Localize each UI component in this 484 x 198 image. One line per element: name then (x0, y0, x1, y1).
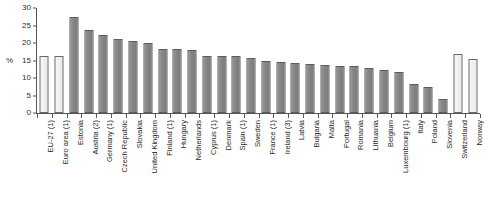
bar-slot (421, 8, 436, 113)
x-tick-label-text: Sweden (254, 120, 262, 147)
bar-slot (170, 8, 185, 113)
bar (217, 56, 226, 113)
x-tick-label-text: Spain (1) (239, 120, 247, 150)
x-tick-label: Malta (328, 120, 336, 138)
x-tick-mark (67, 114, 68, 118)
bar-slot (436, 8, 451, 113)
x-tick-label-text: Slovenia (446, 120, 454, 149)
x-tick-label: Latvia (298, 120, 306, 140)
x-tick-label-text: Slovakia (136, 120, 144, 148)
bar-slot (52, 8, 67, 113)
x-tick-label-text: Malta (328, 120, 336, 138)
bar (232, 56, 241, 113)
x-tick-label-text: Austria (2) (92, 120, 100, 155)
x-tick-mark (111, 114, 112, 118)
x-tick-label: Belgium (387, 120, 395, 147)
bar (291, 63, 300, 113)
bar-slot (37, 8, 52, 113)
x-tick-label: Cyprus (1) (210, 120, 218, 155)
x-tick-label: EU-27 (1) (47, 120, 55, 153)
bar-slot (185, 8, 200, 113)
bar-slot (67, 8, 82, 113)
bar-slot (362, 8, 377, 113)
bar (247, 58, 256, 113)
x-tick-mark (199, 114, 200, 118)
y-tick-label: 20 (22, 39, 31, 47)
bar-slot (332, 8, 347, 113)
x-tick-mark (81, 114, 82, 118)
x-tick-mark (465, 114, 466, 118)
x-tick-label-text: Switzerland (461, 120, 469, 159)
x-tick-label: Denmark (225, 120, 233, 150)
bar (114, 39, 123, 113)
bar (84, 30, 93, 113)
x-tick-label-text: Czech Republic (121, 120, 129, 173)
bar-slot (229, 8, 244, 113)
x-tick-mark (303, 114, 304, 118)
y-tick-label: 30 (22, 4, 31, 12)
x-tick-label-text: Poland (431, 120, 439, 143)
x-tick-mark (436, 114, 437, 118)
x-tick-label: Euro area (1) (62, 120, 70, 164)
x-tick-label-text: Netherlands (195, 120, 203, 160)
bar (409, 84, 418, 113)
bar (365, 68, 374, 114)
y-tick-label: 15 (22, 57, 31, 65)
x-tick-label: Estonia (77, 120, 85, 145)
x-tick-label: France (1) (269, 120, 277, 155)
bar-slot (377, 8, 392, 113)
x-tick-label-text: Belgium (387, 120, 395, 147)
plot-area (37, 8, 480, 113)
bar-slot (214, 8, 229, 113)
x-tick-label-text: Lithuania (372, 120, 380, 150)
x-tick-mark (450, 114, 451, 118)
bar (69, 17, 78, 113)
bar (40, 56, 49, 113)
y-axis: 051015202530 (14, 8, 36, 114)
bar (99, 35, 108, 113)
bar (158, 49, 167, 113)
x-tick-label: Slovenia (446, 120, 454, 149)
bar-slot (450, 8, 465, 113)
x-tick-label: Ireland (3) (284, 120, 292, 154)
x-tick-label-text: Portugal (343, 120, 351, 148)
bar (143, 43, 152, 113)
bar-slot (406, 8, 421, 113)
bar-slot (318, 8, 333, 113)
x-tick-label: Romania (357, 120, 365, 150)
bar (202, 56, 211, 113)
x-axis-labels: EU-27 (1)Euro area (1)EstoniaAustria (2)… (37, 120, 480, 196)
x-tick-mark (480, 114, 481, 118)
x-tick-mark (52, 114, 53, 118)
bar (306, 64, 315, 113)
x-tick-mark (332, 114, 333, 118)
x-tick-label: Bulgaria (313, 120, 321, 148)
bar (55, 56, 64, 113)
x-tick-mark (37, 114, 38, 118)
x-tick-label: Lithuania (372, 120, 380, 150)
bar-slot (126, 8, 141, 113)
x-tick-mark (259, 114, 260, 118)
x-tick-mark (140, 114, 141, 118)
y-tick-label: 5 (27, 92, 31, 100)
bar-slot (96, 8, 111, 113)
bar-slot (288, 8, 303, 113)
x-tick-mark (377, 114, 378, 118)
x-tick-label: Spain (1) (239, 120, 247, 150)
bar (394, 72, 403, 113)
x-axis-ticks (37, 114, 480, 119)
bar (276, 62, 285, 113)
x-tick-mark (318, 114, 319, 118)
x-tick-label: Slovakia (136, 120, 144, 148)
x-tick-label-text: Finland (1) (166, 120, 174, 156)
x-tick-mark (273, 114, 274, 118)
x-tick-label-text: Germany (1) (106, 120, 114, 162)
x-tick-mark (170, 114, 171, 118)
x-tick-label-text: France (1) (269, 120, 277, 155)
bar-slot (273, 8, 288, 113)
x-tick-label-text: Denmark (225, 120, 233, 150)
x-tick-label-text: Latvia (298, 120, 306, 140)
bar-slot (81, 8, 96, 113)
x-tick-mark (391, 114, 392, 118)
